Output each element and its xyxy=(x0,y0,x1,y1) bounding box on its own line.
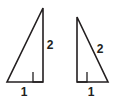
right-triangle-base-label: 1 xyxy=(88,85,95,99)
left-triangle: 1 2 xyxy=(7,8,54,99)
left-triangle-vertical-label: 2 xyxy=(47,38,54,52)
left-triangle-outline xyxy=(7,8,43,82)
diagram-canvas: 1 2 1 2 xyxy=(0,0,117,101)
triangles-diagram: 1 2 1 2 xyxy=(0,0,117,101)
left-triangle-right-angle-icon xyxy=(33,72,43,82)
right-triangle-right-angle-icon xyxy=(77,72,87,82)
left-triangle-base-label: 1 xyxy=(21,85,28,99)
right-triangle: 1 2 xyxy=(77,17,108,99)
right-triangle-outline xyxy=(77,17,108,82)
right-triangle-hypotenuse-label: 2 xyxy=(97,42,104,56)
